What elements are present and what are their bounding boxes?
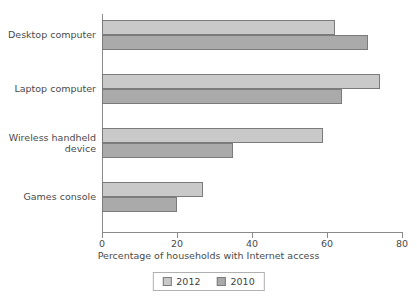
category-label: Laptop computer (0, 83, 96, 95)
chart-legend: 2012 2010 (152, 272, 264, 291)
legend-item-2012[interactable]: 2012 (162, 276, 200, 287)
plot-area (102, 14, 402, 232)
bar-2012 (102, 128, 323, 143)
bar-2010 (102, 197, 177, 212)
bar-group (102, 182, 402, 212)
legend-item-2010[interactable]: 2010 (217, 276, 255, 287)
legend-swatch-icon-2012 (162, 277, 171, 286)
bar-2010 (102, 35, 368, 50)
category-label: Desktop computer (0, 29, 96, 41)
bar-2012 (102, 182, 203, 197)
bar-2012 (102, 74, 380, 89)
x-tick-label: 40 (246, 238, 258, 249)
bar-chart: 020406080 Desktop computerLaptop compute… (0, 0, 417, 303)
category-label: Games console (0, 191, 96, 203)
bar-2012 (102, 20, 335, 35)
x-tick-label: 80 (396, 238, 408, 249)
x-tick-label: 60 (321, 238, 333, 249)
bar-group (102, 128, 402, 158)
bar-group (102, 20, 402, 50)
x-axis-title: Percentage of households with Internet a… (0, 250, 417, 261)
category-label: Wireless handheld device (0, 132, 96, 155)
legend-label-2012: 2012 (176, 276, 200, 287)
legend-swatch-icon-2010 (217, 277, 226, 286)
legend-label-2010: 2010 (231, 276, 255, 287)
bar-2010 (102, 89, 342, 104)
x-tick-label: 20 (171, 238, 183, 249)
bar-2010 (102, 143, 233, 158)
x-tick-label: 0 (99, 238, 105, 249)
bar-group (102, 74, 402, 104)
